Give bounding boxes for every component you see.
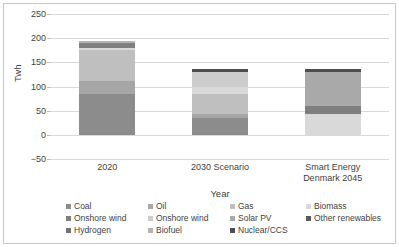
legend-item[interactable]: Gas: [230, 202, 254, 211]
plot-area: 250200150100500−50: [51, 14, 389, 159]
legend-item[interactable]: Other renewables: [306, 214, 381, 223]
bar-column: [79, 14, 135, 159]
x-axis-tick-label-line: 2020: [51, 162, 164, 173]
legend-swatch-icon: [230, 216, 235, 221]
x-axis-tick-label-line: Denmark 2045: [276, 173, 389, 184]
bar-segment[interactable]: [79, 41, 135, 43]
bar-segment[interactable]: [79, 48, 135, 49]
legend-item[interactable]: Biomass: [306, 202, 347, 211]
stacked-bar[interactable]: [305, 14, 361, 159]
chart-frame: Twh 250200150100500−50 20202030 Scenario…: [3, 3, 396, 244]
bar-segment[interactable]: [192, 72, 248, 87]
legend-swatch-icon: [230, 204, 235, 209]
legend-item-label: Nuclear/CCS: [238, 226, 288, 235]
legend-item-label: Onshore wind: [156, 214, 208, 223]
bar-segment[interactable]: [192, 94, 248, 114]
y-axis-title: Twh: [12, 65, 23, 82]
legend-item-label: Solar PV: [238, 214, 272, 223]
x-axis-tick-label: 2030 Scenario: [164, 162, 277, 173]
bar-segment[interactable]: [192, 69, 248, 73]
y-axis-tick-label: 200: [31, 34, 46, 43]
stacked-bar[interactable]: [192, 14, 248, 159]
bar-segment[interactable]: [305, 72, 361, 106]
bar-segment[interactable]: [79, 50, 135, 81]
legend-swatch-icon: [66, 204, 71, 209]
legend-swatch-icon: [230, 228, 235, 233]
legend-item-label: Gas: [238, 202, 254, 211]
legend-item[interactable]: Onshore wind: [66, 214, 126, 223]
x-axis-tick-labels: 20202030 ScenarioSmart EnergyDenmark 204…: [51, 162, 389, 188]
legend-item-label: Biomass: [314, 202, 347, 211]
legend-item-label: Onshore wind: [74, 214, 126, 223]
bar-segment[interactable]: [305, 106, 361, 114]
legend-row: Onshore windOnshore windSolar PVOther re…: [66, 214, 366, 226]
x-axis-tick-label-line: 2030 Scenario: [164, 162, 277, 173]
bar-segment[interactable]: [305, 114, 361, 135]
chart-screenshot: Twh 250200150100500−50 20202030 Scenario…: [0, 0, 399, 247]
legend-item[interactable]: Hydrogen: [66, 226, 111, 235]
y-axis-tick-mark: [47, 159, 51, 160]
legend-item-label: Other renewables: [314, 214, 381, 223]
legend-swatch-icon: [306, 204, 311, 209]
legend-item[interactable]: Oil: [148, 202, 166, 211]
legend-swatch-icon: [148, 228, 153, 233]
stacked-bar[interactable]: [79, 14, 135, 159]
y-axis-tick-label: 50: [36, 106, 46, 115]
legend-item-label: Oil: [156, 202, 166, 211]
y-axis-tick-label: −50: [31, 155, 46, 164]
gridline: [51, 159, 389, 160]
legend-item-label: Hydrogen: [74, 226, 111, 235]
legend-item[interactable]: Solar PV: [230, 214, 272, 223]
bar-series-group: [51, 14, 389, 159]
legend-item-label: Coal: [74, 202, 91, 211]
y-axis-tick-label: 100: [31, 82, 46, 91]
legend-item[interactable]: Onshore wind: [148, 214, 208, 223]
bar-segment[interactable]: [305, 69, 361, 72]
legend-row: HydrogenBiofuelNuclear/CCS: [66, 226, 366, 238]
bar-segment[interactable]: [192, 87, 248, 93]
y-axis-tick-label: 150: [31, 58, 46, 67]
bar-column: [192, 14, 248, 159]
bar-segment[interactable]: [192, 114, 248, 119]
bar-segment[interactable]: [79, 43, 135, 48]
y-axis-tick-label: 0: [41, 130, 46, 139]
legend-swatch-icon: [66, 228, 71, 233]
bar-segment[interactable]: [79, 94, 135, 135]
x-axis-tick-label: Smart EnergyDenmark 2045: [276, 162, 389, 184]
x-axis-tick-label-line: Smart Energy: [276, 162, 389, 173]
bar-segment[interactable]: [192, 118, 248, 134]
x-axis-tick-label: 2020: [51, 162, 164, 173]
legend-item[interactable]: Biofuel: [148, 226, 182, 235]
legend-item[interactable]: Coal: [66, 202, 91, 211]
legend-swatch-icon: [66, 216, 71, 221]
x-axis-title: Year: [51, 188, 389, 199]
legend-item[interactable]: Nuclear/CCS: [230, 226, 288, 235]
bar-column: [305, 14, 361, 159]
bar-segment[interactable]: [79, 81, 135, 94]
legend-swatch-icon: [148, 216, 153, 221]
chart-legend: CoalOilGasBiomassOnshore windOnshore win…: [66, 202, 366, 238]
y-axis-tick-label: 250: [31, 10, 46, 19]
legend-swatch-icon: [306, 216, 311, 221]
legend-swatch-icon: [148, 204, 153, 209]
legend-item-label: Biofuel: [156, 226, 182, 235]
